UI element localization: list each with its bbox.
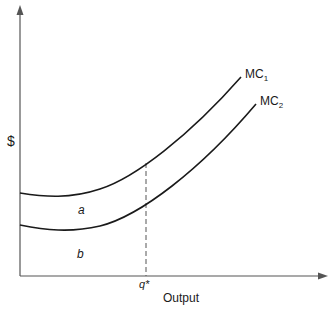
mc1-label-main: MC bbox=[245, 67, 264, 81]
mc1-curve bbox=[20, 77, 241, 196]
mc2-curve bbox=[20, 104, 256, 230]
region-b-label: b bbox=[77, 248, 84, 260]
chart-canvas bbox=[0, 0, 331, 310]
mc2-label-main: MC bbox=[260, 94, 279, 108]
x-axis-label: Output bbox=[163, 292, 199, 304]
q-star-label: q* bbox=[139, 279, 149, 290]
mc1-label-sub: 1 bbox=[264, 74, 268, 83]
mc2-label-sub: 2 bbox=[279, 101, 283, 110]
y-axis-arrow-icon bbox=[17, 5, 24, 15]
region-a-label: a bbox=[78, 204, 85, 216]
x-axis-arrow-icon bbox=[318, 273, 328, 280]
chart: $ Output q* a b MC1 MC2 bbox=[0, 0, 331, 310]
mc1-label: MC1 bbox=[245, 68, 268, 83]
mc2-label: MC2 bbox=[260, 95, 283, 110]
y-axis-label: $ bbox=[7, 134, 15, 148]
